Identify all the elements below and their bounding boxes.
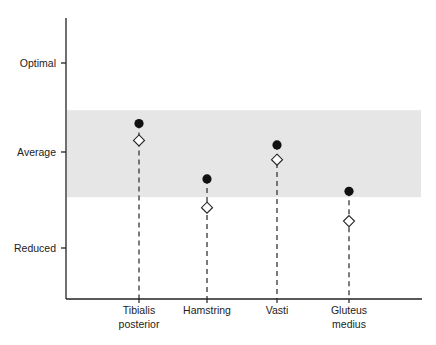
- x-tick-label: medius: [332, 318, 366, 330]
- circle-marker: [202, 174, 211, 183]
- x-tick-label: Hamstring: [183, 304, 231, 316]
- average-band: [67, 110, 421, 197]
- x-tick-label: posterior: [119, 318, 160, 330]
- diamond-marker: [202, 202, 213, 213]
- x-ticks: TibialisposteriorHamstringVastiGluteusme…: [119, 299, 368, 330]
- circle-marker: [134, 119, 143, 128]
- chart: ReducedAverageOptimal TibialisposteriorH…: [0, 0, 436, 345]
- y-ticks: ReducedAverageOptimal: [14, 57, 66, 254]
- x-tick-label: Tibialis: [123, 304, 155, 316]
- y-tick-label: Reduced: [14, 242, 56, 254]
- y-tick-label: Optimal: [20, 57, 56, 69]
- circle-marker: [344, 187, 353, 196]
- x-tick-label: Gluteus: [331, 304, 367, 316]
- y-tick-label: Average: [17, 146, 56, 158]
- diamond-marker: [344, 216, 355, 227]
- circle-marker: [272, 140, 281, 149]
- average-band-rect: [67, 110, 421, 197]
- x-tick-label: Vasti: [266, 304, 289, 316]
